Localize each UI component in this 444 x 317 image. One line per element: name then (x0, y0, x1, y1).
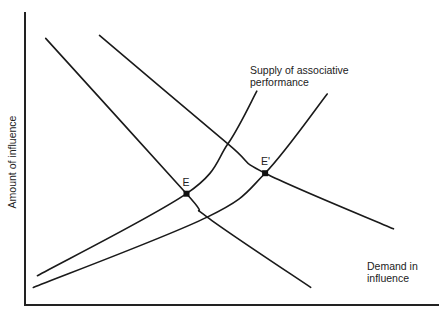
supply-annotation-line1: Supply of associative (250, 64, 349, 76)
y-axis-label: Amount of influence (6, 115, 18, 208)
supply-demand-diagram: Amount of influence EE' Supply of associ… (0, 0, 444, 317)
equilibrium-label-e: E (183, 176, 190, 188)
supply-annotation-line2: performance (250, 76, 309, 88)
equilibrium-point-e-prime (262, 170, 268, 176)
equilibrium-point-e (184, 191, 190, 197)
equilibrium-label-e-prime: E' (261, 155, 270, 167)
demand-curve-1 (100, 35, 394, 228)
demand-annotation-line1: Demand in (367, 260, 418, 272)
equilibrium-points-group: EE' (183, 155, 271, 197)
supply-curve-3 (33, 94, 327, 287)
demand-annotation-line2: influence (367, 272, 409, 284)
supply-curve-2 (37, 91, 256, 276)
